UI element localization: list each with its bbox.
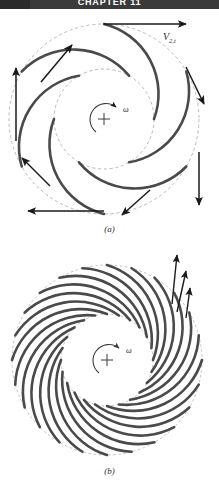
figure-panel-a (0, 10, 219, 232)
rotation-arrow-a (90, 103, 116, 132)
running-head-band: CHAPTER 11 (0, 0, 219, 9)
running-head-text: CHAPTER 11 (78, 0, 142, 8)
blade (77, 119, 187, 214)
center-mark-a (98, 113, 110, 125)
velocity-arrow-bottom-left (22, 158, 50, 186)
blade (22, 24, 132, 119)
panel-a-caption: (a) (0, 224, 219, 234)
blade (4, 324, 107, 427)
velocity-arrow-b-mid (177, 271, 186, 312)
textbook-page: CHAPTER 11 (0, 0, 219, 486)
blade (94, 360, 199, 434)
omega-label-a: ω (123, 105, 129, 114)
blade (33, 347, 107, 452)
velocity-label-v2t: V2,t (163, 31, 176, 44)
blade (40, 257, 143, 360)
blade (107, 313, 215, 405)
blade (107, 268, 181, 373)
panel-b-caption: (b) (0, 466, 219, 476)
blade (63, 360, 155, 468)
figure-panel-b (0, 240, 219, 486)
rotation-arrow-b (93, 344, 119, 373)
velocity-label-subscript: 2,t (169, 37, 176, 44)
blade (49, 119, 104, 214)
omega-label-b: ω (126, 346, 132, 355)
velocity-arrow-bottom-right (122, 190, 150, 215)
running-head-inner: CHAPTER 11 (0, 0, 219, 9)
blade (60, 252, 152, 360)
center-mark-b (101, 354, 113, 366)
impeller-diagram-b (0, 240, 219, 486)
impeller-diagram-a (0, 10, 219, 232)
blade (107, 293, 210, 396)
blade (71, 360, 174, 463)
blade (15, 286, 120, 360)
